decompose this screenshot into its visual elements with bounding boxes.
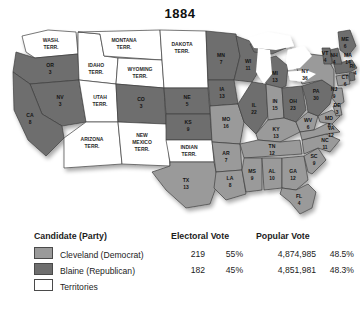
svg-text:13: 13	[183, 185, 189, 190]
legend-cell-popular: 4,874,98548.5%	[256, 246, 354, 262]
svg-text:MA: MA	[344, 52, 352, 58]
svg-text:15: 15	[272, 106, 278, 111]
svg-text:3: 3	[336, 110, 339, 115]
svg-text:13: 13	[219, 94, 225, 99]
svg-text:DAKOTA: DAKOTA	[171, 41, 192, 47]
svg-text:MI: MI	[272, 70, 278, 76]
svg-text:6: 6	[344, 82, 347, 87]
svg-text:OH: OH	[289, 98, 297, 104]
lake-superior	[248, 32, 294, 50]
legend: Candidate (Party) Electoral Vote Popular…	[34, 231, 354, 294]
svg-text:7: 7	[225, 158, 228, 163]
svg-text:8: 8	[29, 120, 32, 125]
svg-text:4: 4	[333, 60, 336, 65]
legend-row-blaine: Blaine (Republican) 18245% 4,851,98148.3…	[34, 262, 354, 278]
svg-text:IL: IL	[252, 102, 257, 108]
svg-text:IDAHO: IDAHO	[88, 62, 104, 68]
svg-text:TERR.: TERR.	[117, 44, 133, 50]
svg-text:UTAH: UTAH	[93, 94, 107, 100]
svg-text:9: 9	[313, 161, 316, 166]
blaine-electoral-vote: 182	[171, 265, 205, 275]
legend-cell-candidate: Blaine (Republican)	[34, 262, 171, 278]
svg-text:LA: LA	[227, 175, 234, 181]
svg-text:13: 13	[272, 78, 278, 83]
svg-text:11: 11	[245, 66, 250, 71]
legend-cell-electoral: 18245%	[171, 262, 256, 278]
svg-text:8: 8	[229, 183, 232, 188]
svg-text:36: 36	[302, 76, 308, 81]
svg-text:16: 16	[223, 124, 229, 129]
svg-text:AL: AL	[269, 168, 276, 174]
cleveland-electoral-pct: 55%	[205, 249, 243, 259]
svg-text:4: 4	[324, 58, 327, 63]
svg-text:4: 4	[354, 71, 357, 76]
legend-table: Candidate (Party) Electoral Vote Popular…	[34, 231, 354, 294]
legend-cell-candidate: Territories	[34, 278, 171, 294]
svg-text:3: 3	[59, 102, 62, 107]
svg-text:CA: CA	[26, 112, 34, 118]
svg-text:11: 11	[322, 145, 327, 150]
legend-row-territories: Territories	[34, 278, 354, 294]
svg-text:MS: MS	[248, 168, 256, 174]
svg-text:NV: NV	[56, 94, 64, 100]
svg-text:INDIAN: INDIAN	[180, 144, 198, 150]
swatch-territory	[34, 279, 53, 291]
svg-text:MONTANA: MONTANA	[111, 37, 137, 43]
swatch-democrat	[34, 247, 53, 259]
svg-text:KS: KS	[184, 119, 192, 125]
svg-text:TERR.: TERR.	[182, 151, 198, 157]
svg-text:VT: VT	[322, 50, 329, 56]
legend-cell-electoral: 21955%	[171, 246, 256, 262]
legend-row-cleveland: Cleveland (Democrat) 21955% 4,874,98548.…	[34, 246, 354, 262]
svg-text:12: 12	[328, 133, 334, 138]
svg-text:TERR.: TERR.	[85, 143, 101, 149]
svg-text:13: 13	[273, 134, 279, 139]
svg-text:MN: MN	[217, 52, 225, 58]
svg-text:12: 12	[269, 151, 275, 156]
legend-cell-candidate: Cleveland (Democrat)	[34, 246, 171, 262]
svg-text:TN: TN	[269, 143, 276, 149]
svg-text:MD: MD	[325, 115, 333, 121]
legend-header-candidate: Candidate (Party)	[34, 231, 171, 246]
svg-text:MO: MO	[222, 116, 230, 122]
svg-text:OR: OR	[46, 62, 54, 68]
svg-text:NJ: NJ	[331, 86, 338, 92]
legend-cell-electoral	[171, 278, 256, 294]
electoral-map: WASH. TERR. MONTANA TERR. DAKOTA TERR. I…	[0, 22, 360, 222]
svg-text:NEW: NEW	[136, 132, 148, 138]
svg-text:SC: SC	[310, 153, 317, 159]
svg-text:NH: NH	[330, 52, 338, 58]
legend-label-blaine: Blaine (Republican)	[60, 266, 135, 276]
svg-text:30: 30	[313, 96, 319, 101]
svg-text:PA: PA	[313, 88, 320, 94]
legend-header-electoral: Electoral Vote	[171, 231, 256, 246]
swatch-republican	[34, 263, 53, 275]
cleveland-popular-vote: 4,874,985	[256, 249, 316, 259]
svg-text:IA: IA	[219, 86, 224, 92]
svg-text:TERR.: TERR.	[133, 73, 149, 79]
svg-text:DE: DE	[333, 102, 341, 108]
svg-text:CT: CT	[342, 74, 350, 80]
cleveland-popular-pct: 48.5%	[316, 249, 354, 259]
svg-text:ARIZONA: ARIZONA	[81, 136, 104, 142]
svg-text:3: 3	[140, 104, 143, 109]
svg-text:12: 12	[290, 176, 296, 181]
svg-text:ME: ME	[341, 36, 349, 42]
svg-text:8: 8	[328, 123, 331, 128]
svg-text:TERR.: TERR.	[93, 101, 109, 107]
region-ia	[208, 80, 238, 106]
legend-header-popular: Popular Vote	[256, 231, 354, 246]
svg-text:TERR.: TERR.	[135, 146, 151, 152]
svg-text:TERR.: TERR.	[44, 44, 60, 50]
svg-text:4: 4	[298, 201, 301, 206]
svg-text:23: 23	[290, 106, 296, 111]
svg-text:TERR.: TERR.	[175, 48, 191, 54]
legend-label-cleveland: Cleveland (Democrat)	[60, 250, 144, 260]
svg-text:AR: AR	[222, 150, 230, 156]
svg-text:10: 10	[269, 176, 275, 181]
blaine-popular-vote: 4,851,981	[256, 265, 316, 275]
svg-text:MEXICO: MEXICO	[132, 139, 152, 145]
svg-text:NY: NY	[301, 68, 309, 74]
svg-text:KY: KY	[272, 126, 280, 132]
legend-cell-popular: 4,851,98148.3%	[256, 262, 354, 278]
